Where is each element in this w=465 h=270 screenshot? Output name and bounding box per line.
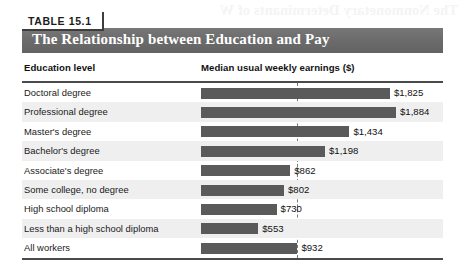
bar-value-label: $553 xyxy=(262,223,283,234)
bar xyxy=(201,126,349,137)
column-header-earnings: Median usual weekly earnings ($) xyxy=(201,62,355,73)
bar-value-label: $1,825 xyxy=(394,87,423,98)
table-row: All workers$932 xyxy=(22,238,443,257)
row-label-education-level: Professional degree xyxy=(24,106,108,117)
page-bleedthrough-text: The Nonmonetary Determinants of W xyxy=(218,2,458,24)
table-number-label: TABLE 15.1 xyxy=(28,15,92,27)
bar-value-label: $932 xyxy=(301,242,322,253)
table-row: Associate's degree$862 xyxy=(22,161,443,180)
row-label-education-level: Some college, no degree xyxy=(24,184,129,195)
table-row: Some college, no degree$802 xyxy=(22,180,443,199)
bar xyxy=(201,107,396,118)
row-label-education-level: High school diploma xyxy=(24,203,109,214)
bar-value-label: $1,198 xyxy=(329,145,358,156)
row-label-education-level: Associate's degree xyxy=(24,165,103,176)
row-label-education-level: All workers xyxy=(24,242,70,253)
table-title-bar: The Relationship between Education and P… xyxy=(22,28,443,53)
table-body: Doctoral degree$1,825Professional degree… xyxy=(22,83,443,258)
bar-value-label: $730 xyxy=(281,203,302,214)
bar xyxy=(201,185,284,196)
table-row: Master's degree$1,434 xyxy=(22,122,443,141)
bar xyxy=(201,204,277,215)
bar-value-label: $862 xyxy=(294,165,315,176)
footer-rule xyxy=(22,258,443,260)
bar xyxy=(201,146,325,157)
table-number-badge: TABLE 15.1 xyxy=(22,12,104,31)
table-row: Professional degree$1,884 xyxy=(22,102,443,121)
bar-value-label: $802 xyxy=(288,184,309,195)
row-label-education-level: Doctoral degree xyxy=(24,87,91,98)
table-figure: The Nonmonetary Determinants of W The Re… xyxy=(0,0,465,270)
bar xyxy=(201,88,390,99)
bar xyxy=(201,223,258,234)
row-label-education-level: Less than a high school diploma xyxy=(24,223,159,234)
bar xyxy=(201,243,297,254)
table-title: The Relationship between Education and P… xyxy=(32,31,330,48)
bar-value-label: $1,434 xyxy=(353,126,382,137)
table-row: Less than a high school diploma$553 xyxy=(22,219,443,238)
bar-value-label: $1,884 xyxy=(400,106,429,117)
row-label-education-level: Bachelor's degree xyxy=(24,145,100,156)
bar xyxy=(201,165,290,176)
row-label-education-level: Master's degree xyxy=(24,126,91,137)
table-row: Doctoral degree$1,825 xyxy=(22,83,443,102)
column-header-education-level: Education level xyxy=(24,62,95,73)
table-row: High school diploma$730 xyxy=(22,199,443,218)
table-row: Bachelor's degree$1,198 xyxy=(22,141,443,160)
